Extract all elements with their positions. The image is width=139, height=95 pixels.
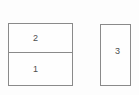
figure-canvas: 2 1 3 [0, 0, 139, 95]
cell-1-label: 1 [33, 65, 38, 74]
cell-2: 2 [9, 24, 72, 53]
right-block-label: 3 [115, 47, 120, 56]
right-block: 3 [100, 24, 131, 86]
left-block: 2 1 [8, 23, 73, 86]
cell-2-label: 2 [33, 34, 38, 43]
cell-1: 1 [9, 53, 72, 85]
